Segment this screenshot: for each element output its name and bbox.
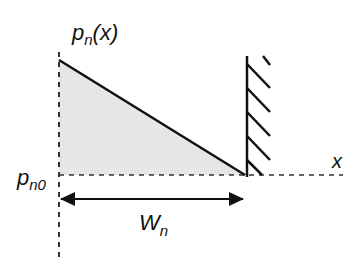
wall-hatching — [247, 56, 270, 175]
width-arrow-right-head — [229, 192, 244, 206]
diagram-svg: pn(x) x pn0 Wn — [0, 0, 355, 275]
y-axis-label: pn(x) — [71, 20, 118, 48]
x-axis-label: x — [331, 150, 343, 172]
width-arrow-left-head — [60, 192, 75, 206]
width-label: Wn — [139, 210, 168, 239]
baseline-label: pn0 — [16, 165, 47, 193]
depletion-profile-diagram: pn(x) x pn0 Wn — [0, 0, 355, 275]
